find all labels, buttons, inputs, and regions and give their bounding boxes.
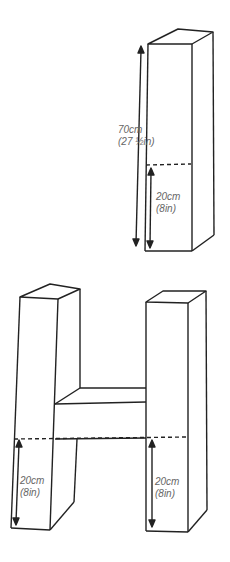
section-imperial: (8in) <box>156 203 180 215</box>
column-section-label: 20cm (8in) <box>156 191 180 215</box>
right-leg-imperial: (8in) <box>155 488 179 500</box>
column-section-arrow <box>147 168 154 248</box>
section-metric: 20cm <box>156 191 180 203</box>
left-leg-label: 20cm (8in) <box>20 475 44 499</box>
column-total-label: 70cm (27 ½in) <box>118 124 155 148</box>
total-metric: 70cm <box>118 124 155 136</box>
column-box <box>145 29 214 251</box>
left-leg-imperial: (8in) <box>20 487 44 499</box>
left-leg-metric: 20cm <box>20 475 44 487</box>
right-leg-metric: 20cm <box>155 476 179 488</box>
right-leg-label: 20cm (8in) <box>155 476 179 500</box>
total-imperial: (27 ½in) <box>118 136 155 148</box>
